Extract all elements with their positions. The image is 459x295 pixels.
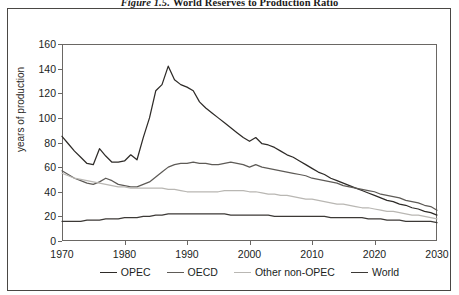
y-tick-label: 160 [22, 38, 56, 50]
x-tick-mark [312, 241, 313, 245]
x-tick-label: 2020 [353, 248, 397, 260]
legend-label: OPEC [121, 266, 151, 278]
chart-area: years of production 02040608010012014016… [0, 0, 459, 295]
y-tick-label: 40 [22, 186, 56, 198]
legend-label: World [372, 266, 399, 278]
chart-legend: OPECOECDOther non-OPECWorld [62, 264, 437, 280]
series-line-world [62, 214, 437, 223]
y-tick-label: 60 [22, 161, 56, 173]
y-tick-label: 140 [22, 63, 56, 75]
y-tick-label: 20 [22, 210, 56, 222]
x-tick-label: 1990 [165, 248, 209, 260]
y-tick-mark [58, 241, 62, 242]
x-tick-label: 2000 [228, 248, 272, 260]
legend-item-opec[interactable]: OPEC [100, 266, 151, 278]
series-line-opec [62, 66, 437, 215]
x-tick-label: 1980 [103, 248, 147, 260]
figure-root: Figure 1.5. World Reserves to Production… [0, 0, 459, 295]
y-tick-label: 0 [22, 235, 56, 247]
x-tick-label: 2030 [415, 248, 459, 260]
legend-line-icon [351, 272, 368, 273]
x-tick-mark [187, 241, 188, 245]
y-tick-label: 100 [22, 112, 56, 124]
series-lines [62, 44, 437, 241]
x-tick-mark [250, 241, 251, 245]
legend-line-icon [234, 272, 251, 273]
y-tick-label: 120 [22, 87, 56, 99]
legend-line-icon [167, 272, 184, 273]
x-tick-label: 2010 [290, 248, 334, 260]
legend-item-other-non-opec[interactable]: Other non-OPEC [234, 266, 335, 278]
x-tick-mark [375, 241, 376, 245]
legend-label: Other non-OPEC [255, 266, 335, 278]
y-tick-label: 80 [22, 137, 56, 149]
legend-item-world[interactable]: World [351, 266, 399, 278]
legend-line-icon [100, 272, 117, 273]
series-line-other-non-opec [62, 173, 437, 219]
legend-label: OECD [188, 266, 218, 278]
legend-item-oecd[interactable]: OECD [167, 266, 218, 278]
x-tick-label: 1970 [40, 248, 84, 260]
x-tick-mark [125, 241, 126, 245]
